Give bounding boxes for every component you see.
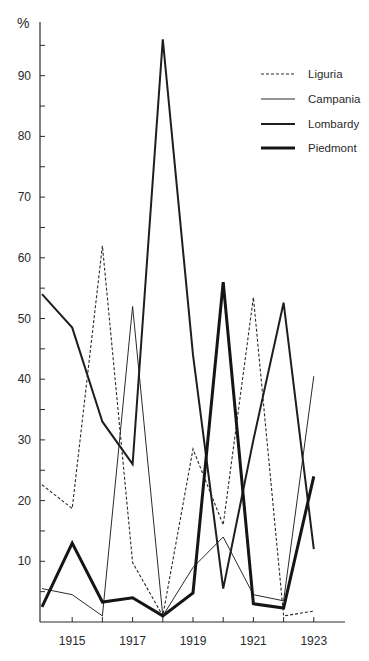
y-tick-label: 90	[18, 69, 32, 83]
legend-label: Campania	[308, 93, 361, 105]
series-line-liguria	[42, 246, 314, 616]
y-tick-label: 20	[18, 494, 32, 508]
y-tick-label: 60	[18, 251, 32, 265]
x-tick-label: 1921	[240, 634, 267, 648]
y-tick-label: 10	[18, 554, 32, 568]
line-chart: % 102030405060708090 1915191719191921192…	[0, 0, 369, 661]
y-tick-label: 70	[18, 190, 32, 204]
legend-label: Lombardy	[308, 118, 359, 130]
y-tick-label: 30	[18, 433, 32, 447]
y-tick-label: 80	[18, 129, 32, 143]
y-tick-label: 50	[18, 312, 32, 326]
x-tick-label: 1917	[119, 634, 146, 648]
series-line-piedmont	[42, 282, 314, 616]
y-ticks: 102030405060708090	[18, 45, 45, 591]
legend-label: Liguria	[308, 68, 343, 80]
x-tick-label: 1915	[59, 634, 86, 648]
legend-item-campania: Campania	[261, 93, 361, 105]
data-series	[42, 39, 314, 616]
legend-item-liguria: Liguria	[261, 68, 343, 80]
y-axis-unit-label: %	[17, 15, 29, 31]
x-tick-label: 1919	[180, 634, 207, 648]
x-tick-label: 1923	[300, 634, 327, 648]
legend: Liguria Campania Lombardy Piedmont	[261, 68, 361, 154]
series-line-lombardy	[42, 39, 314, 588]
legend-item-piedmont: Piedmont	[261, 142, 357, 154]
y-tick-label: 40	[18, 372, 32, 386]
legend-label: Piedmont	[308, 142, 357, 154]
legend-item-lombardy: Lombardy	[261, 118, 359, 130]
